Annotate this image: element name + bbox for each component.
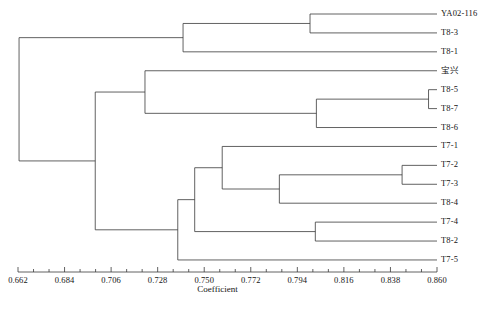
axis-title: Coefficient (197, 284, 237, 294)
leaf-label-t8-6: T8-6 (441, 123, 458, 132)
dendrogram-figure: YA02-116T8-3T8-1宝兴T8-5T8-7T8-6T7-1T7-2T7… (0, 0, 489, 310)
axis-tick-label: 0.838 (381, 276, 401, 285)
leaf-label-ya02-116: YA02-116 (441, 9, 477, 18)
axis-tick-label: 0.772 (241, 276, 261, 285)
leaf-label-t7-4: T7-4 (441, 217, 458, 226)
axis-tick-label: 0.794 (288, 276, 308, 285)
leaf-label-t7-2: T7-2 (441, 160, 458, 169)
axis-tick-label: 0.662 (8, 276, 28, 285)
leaf-label-t7-3: T7-3 (441, 179, 458, 188)
axis-tick-label: 0.684 (55, 276, 75, 285)
leaf-label-t8-3: T8-3 (441, 28, 458, 37)
leaf-label-t7-5: T7-5 (441, 255, 458, 264)
axis-tick-label: 0.860 (427, 276, 447, 285)
coefficient-axis (18, 267, 437, 272)
leaf-label-t8-1: T8-1 (441, 47, 458, 56)
leaf-label-t7-1: T7-1 (441, 141, 458, 150)
leaf-label-t8-2: T8-2 (441, 236, 458, 245)
leaf-label-t8-4: T8-4 (441, 198, 458, 207)
leaf-label-t8-5: T8-5 (441, 85, 458, 94)
axis-tick-label: 0.816 (334, 276, 354, 285)
leaf-label-t8-7: T8-7 (441, 104, 458, 113)
dendrogram-plot (0, 0, 489, 310)
axis-tick-label: 0.728 (148, 276, 168, 285)
dendrogram-branches (19, 14, 437, 260)
leaf-label-: 宝兴 (441, 66, 459, 75)
axis-tick-label: 0.706 (101, 276, 121, 285)
